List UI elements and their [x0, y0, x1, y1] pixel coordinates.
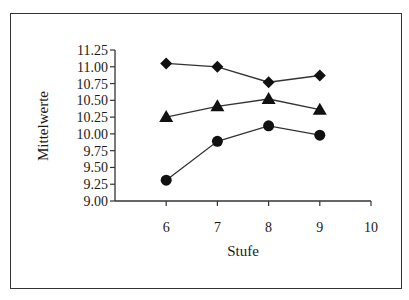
y-tick-label: 9.25	[84, 177, 109, 192]
chart-series	[159, 57, 327, 185]
x-tick-label: 9	[316, 220, 323, 235]
y-axis: 9.009.259.509.7510.0010.2510.5010.7511.0…	[77, 43, 116, 209]
y-tick-label: 10.25	[77, 110, 109, 125]
y-tick-label: 10.75	[77, 77, 109, 92]
circle-marker	[212, 136, 223, 147]
series-diamond	[160, 57, 326, 88]
x-tick-label: 6	[163, 220, 170, 235]
circle-marker	[161, 175, 172, 186]
circle-marker	[314, 130, 325, 141]
line-chart: 9.009.259.509.7510.0010.2510.5010.7511.0…	[0, 0, 409, 300]
diamond-marker	[263, 76, 275, 88]
diamond-marker	[160, 57, 172, 69]
x-tick-label: 8	[265, 220, 272, 235]
diamond-marker	[211, 61, 223, 73]
diamond-marker	[314, 70, 326, 82]
x-axis-title: Stufe	[227, 243, 259, 259]
x-tick-label: 7	[214, 220, 221, 235]
series-triangle	[159, 92, 327, 122]
triangle-marker	[262, 92, 276, 104]
y-axis-title: Mittelwerte	[35, 91, 51, 161]
circle-marker	[263, 120, 274, 131]
y-tick-label: 11.25	[77, 43, 108, 58]
x-tick-label: 10	[364, 220, 378, 235]
y-tick-label: 9.75	[84, 144, 109, 159]
y-tick-label: 9.50	[84, 160, 109, 175]
series-circle	[161, 120, 326, 185]
y-tick-label: 10.00	[77, 127, 109, 142]
y-tick-label: 10.50	[77, 93, 109, 108]
x-axis: 678910	[115, 201, 378, 235]
y-tick-label: 11.00	[77, 60, 108, 75]
y-tick-label: 9.00	[84, 194, 109, 209]
